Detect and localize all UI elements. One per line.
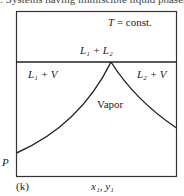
region-label-top: L₁ + L₂ [80,44,113,56]
y-axis-label: P [2,156,9,168]
region-label-right: L₂ + V [137,68,167,80]
condition-label: T = const. [108,16,152,28]
x-axis-label: x₁, y₁ [91,180,114,192]
region-label-center: Vapor [97,98,123,110]
phase-diagram-plot [0,0,184,196]
region-label-left: L₁ + V [28,68,58,80]
panel-label: (k) [16,180,29,192]
plot-frame [17,12,177,177]
